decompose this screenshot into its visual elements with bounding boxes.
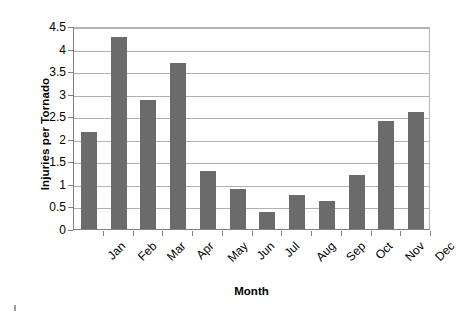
scan-artifact-speck bbox=[14, 305, 16, 311]
x-tick-mark bbox=[400, 231, 401, 236]
x-tick-mark bbox=[222, 231, 223, 236]
gridline bbox=[74, 51, 429, 52]
x-tick-mark bbox=[371, 231, 372, 236]
x-tick-mark bbox=[281, 231, 282, 236]
x-axis-title: Month bbox=[73, 285, 430, 297]
x-tick-mark bbox=[311, 231, 312, 236]
x-tick-label: Aug bbox=[313, 239, 338, 264]
gridline bbox=[74, 96, 429, 97]
gridline bbox=[74, 118, 429, 119]
gridline bbox=[74, 208, 429, 209]
x-tick-label: Oct bbox=[372, 239, 395, 262]
x-tick-label: Sep bbox=[343, 239, 368, 264]
x-tick-mark bbox=[341, 231, 342, 236]
bar bbox=[81, 132, 97, 229]
x-tick-label: Jan bbox=[105, 239, 129, 263]
x-tick-label: Jun bbox=[253, 239, 277, 263]
bar bbox=[200, 171, 216, 229]
bar bbox=[170, 63, 186, 229]
x-tick-mark bbox=[430, 231, 431, 236]
x-tick-label: Jul bbox=[282, 239, 303, 260]
bar bbox=[319, 201, 335, 229]
x-tick-mark bbox=[252, 231, 253, 236]
y-axis-title: Injuries per Tornado bbox=[39, 29, 51, 239]
x-tick-mark bbox=[103, 231, 104, 236]
gridline bbox=[74, 141, 429, 142]
x-tick-mark bbox=[133, 231, 134, 236]
x-tick-label: May bbox=[225, 239, 251, 265]
bar bbox=[289, 195, 305, 229]
y-tick-mark bbox=[68, 230, 73, 231]
bar bbox=[408, 112, 424, 229]
gridline bbox=[74, 73, 429, 74]
bar bbox=[140, 100, 156, 229]
bar bbox=[259, 212, 275, 229]
x-tick-label: Dec bbox=[432, 239, 457, 264]
x-tick-label: Mar bbox=[164, 239, 189, 264]
bar bbox=[378, 121, 394, 229]
gridline bbox=[74, 28, 429, 29]
bar bbox=[111, 37, 127, 229]
plot-area bbox=[73, 27, 430, 230]
x-tick-mark bbox=[192, 231, 193, 236]
gridline bbox=[74, 186, 429, 187]
gridline bbox=[74, 163, 429, 164]
bar bbox=[230, 189, 246, 229]
bar bbox=[349, 175, 365, 229]
x-tick-label: Nov bbox=[403, 239, 428, 264]
x-tick-label: Feb bbox=[135, 239, 160, 264]
x-tick-mark bbox=[162, 231, 163, 236]
x-tick-label: Apr bbox=[194, 239, 217, 262]
